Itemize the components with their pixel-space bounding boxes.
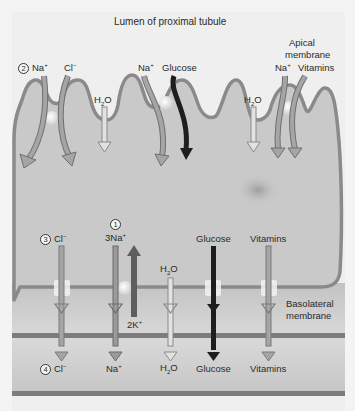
plus-sup: +: [122, 232, 126, 238]
cl-text: Cl: [54, 233, 63, 244]
arrow-glucose-basolateral: [211, 246, 216, 350]
sub-2: 2: [167, 369, 170, 375]
baso-label-h2o: H2O: [160, 264, 178, 274]
sub-2: 2: [251, 101, 254, 107]
o-text: O: [170, 263, 177, 274]
inter-label-h2o: H2O: [160, 363, 178, 373]
plus-sup: +: [44, 62, 48, 68]
o-text: O: [254, 94, 261, 105]
apical-label-h2o-2: H2O: [244, 95, 262, 105]
inter-label-cl: 4Cl−: [40, 364, 67, 375]
apical-label-glucose: Glucose: [162, 63, 197, 73]
apical-membrane-line1: Apical: [285, 37, 330, 49]
apical-na-glucose-symporter: [159, 96, 173, 110]
arrow-k-basolateral: [131, 255, 137, 317]
apical-label-vitamins: Vitamins: [298, 63, 334, 73]
h-text: H: [160, 362, 167, 373]
baso-label-cl: 3Cl−: [40, 234, 67, 245]
arrow-na-basolateral: [113, 246, 118, 346]
na-text: Na: [106, 363, 118, 374]
cl-text: Cl: [64, 62, 73, 73]
plus-sup: +: [118, 363, 122, 369]
na-text: Na: [275, 62, 287, 73]
apical-label-na-2: Na+: [138, 63, 154, 73]
na-text: 3Na: [105, 232, 122, 243]
baso-label-glucose: Glucose: [196, 234, 231, 244]
na-text: Na: [32, 62, 44, 73]
inter-label-vitamins: Vitamins: [250, 364, 286, 374]
lumen-title: Lumen of proximal tubule: [114, 17, 226, 27]
sub-2: 2: [101, 101, 104, 107]
na-k-pump: [118, 281, 132, 295]
plus-sup: +: [287, 62, 291, 68]
inter-label-glucose: Glucose: [196, 364, 231, 374]
h-text: H: [160, 263, 167, 274]
na-text: Na: [138, 62, 150, 73]
capillary-wall-bottom: [12, 391, 345, 396]
apical-membrane-line2: membrane: [285, 49, 330, 61]
apical-label-na-3: Na+: [275, 63, 291, 73]
minus-sup: −: [63, 363, 67, 369]
arrow-h2o-apical-1: [102, 107, 107, 143]
apical-label-cl: Cl−: [64, 63, 77, 73]
h-text: H: [244, 94, 251, 105]
baso-label-3na: 3Na+: [105, 233, 126, 243]
minus-sup: −: [63, 233, 67, 239]
apical-label-na-1: 2Na+: [18, 63, 48, 74]
arrow-cl-basolateral: [59, 246, 64, 346]
arrow-vitamins-basolateral: [266, 246, 271, 346]
basolateral-membrane-label: Basolateral membrane: [286, 298, 334, 322]
plus-sup: +: [150, 62, 154, 68]
cl-text: Cl: [54, 363, 63, 374]
inter-label-na: Na+: [106, 364, 122, 374]
sub-2: 2: [167, 270, 170, 276]
step-2-badge: 2: [18, 63, 29, 74]
basolateral-membrane-line1: Basolateral: [286, 298, 334, 310]
o-text: O: [104, 94, 111, 105]
step-4-badge: 4: [40, 364, 51, 375]
basolateral-membrane-line2: membrane: [286, 310, 334, 322]
baso-label-vitamins: Vitamins: [250, 234, 286, 244]
step-3-badge: 3: [40, 234, 51, 245]
apical-label-h2o-1: H2O: [94, 95, 112, 105]
baso-label-2k: 2K+: [127, 320, 142, 330]
step-1-badge: 1: [110, 219, 121, 230]
minus-sup: −: [73, 62, 77, 68]
k-text: 2K: [127, 319, 139, 330]
h-text: H: [94, 94, 101, 105]
o-text: O: [170, 362, 177, 373]
plus-sup: +: [139, 319, 143, 325]
step-1-badge-wrap: 1: [110, 219, 124, 230]
arrow-h2o-apical-2: [251, 107, 256, 143]
cell-smudge: [236, 174, 280, 206]
apical-membrane-label: Apical membrane: [285, 37, 330, 61]
